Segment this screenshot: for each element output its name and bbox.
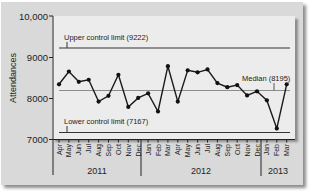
month-label: Oct [115,144,122,155]
data-point [275,126,279,130]
data-point [225,85,229,89]
month-label: Nov [244,144,251,157]
y-tick-label-9000: 9000 [27,52,48,63]
ucl-label: Upper control limit (9222) [64,33,149,42]
month-label: Mar [164,143,171,156]
data-point [205,67,209,71]
month-labels: AprMayJunJulAugSepOctNovDecJanFebMarAprM… [56,143,291,157]
month-label: Sep [224,144,232,157]
data-point [106,94,110,98]
month-label: Dec [254,144,261,157]
y-axis-label: Attendances [8,52,18,103]
control-chart: 10,000 9000 8000 7000 Attendances AprMay… [0,0,315,191]
month-label: Jan [263,144,270,155]
month-label: Feb [273,144,280,156]
data-point [156,109,160,113]
data-point [235,83,239,87]
y-tick-label-7000: 7000 [27,134,48,145]
data-point [87,78,91,82]
month-label: Jul [204,144,211,153]
data-point [116,73,120,77]
data-point [186,68,190,72]
year-label-2013: 2013 [268,166,288,176]
month-label: Jul [85,144,92,153]
month-label: May [184,144,192,158]
month-label: May [65,144,73,158]
y-tick-label-8000: 8000 [27,93,48,104]
month-label: Sep [105,144,113,157]
data-point [285,82,289,86]
data-point [176,99,180,103]
data-point [265,98,269,102]
month-label: Mar [283,143,290,156]
data-point [97,99,101,103]
data-point [245,93,249,97]
data-point [166,64,170,68]
year-label-2012: 2012 [191,166,211,176]
data-point [255,89,259,93]
month-label: Jun [75,144,82,155]
y-tick-label-10000: 10,000 [19,11,48,22]
data-point [136,96,140,100]
data-point [57,82,61,86]
data-point [215,81,219,85]
data-point [67,69,71,73]
month-label: Aug [214,144,222,157]
month-label: Oct [234,144,241,155]
data-point [196,70,200,74]
month-label: Apr [174,143,182,155]
month-label: Apr [56,143,64,155]
month-label: Jan [145,144,152,155]
data-point [77,80,81,84]
month-label: Nov [125,144,132,157]
month-label: Jun [194,144,201,155]
month-label: Feb [155,144,162,156]
median-label: Median (8195) [242,74,291,83]
year-label-2011: 2011 [87,166,106,176]
data-point [126,105,130,109]
lcl-label: Lower control limit (7167) [64,117,149,126]
month-label: Aug [95,144,103,157]
data-point [146,91,150,95]
